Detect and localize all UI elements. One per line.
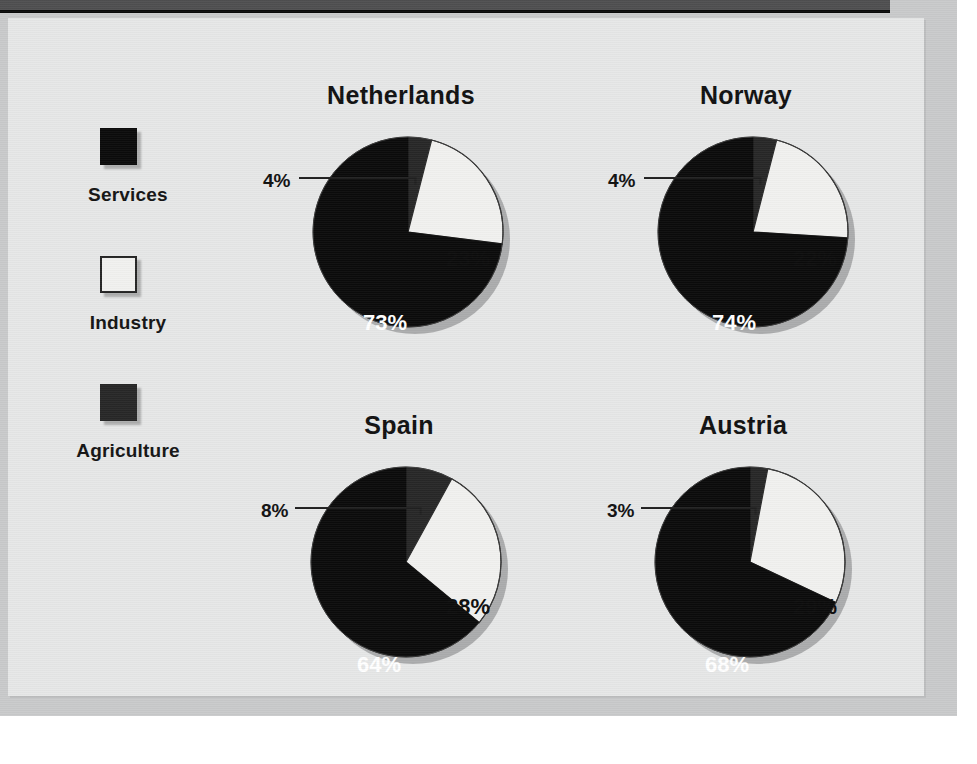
pie-slice-label-industry-norway: 22% xyxy=(793,246,837,272)
pie-slice-label-industry-netherlands: 23% xyxy=(446,246,490,272)
pie-title-norway: Norway xyxy=(596,80,896,110)
pie-title-spain: Spain xyxy=(249,410,549,440)
pie-leader-label-spain: 8% xyxy=(261,500,288,522)
pie-chart-austria: Austria 3% 29% 68% xyxy=(593,410,893,676)
pie-chart-spain: Spain 8% 28% 64% xyxy=(249,410,549,676)
pie-slice-label-services-spain: 64% xyxy=(357,652,401,678)
pie-leader-label-netherlands: 4% xyxy=(263,170,290,192)
slide-canvas: Services Industry Agriculture Netherland… xyxy=(0,0,957,716)
pie-title-netherlands: Netherlands xyxy=(251,80,551,110)
legend: Services Industry Agriculture xyxy=(18,128,238,512)
pie-chart-netherlands: Netherlands 4% 23% 73% xyxy=(251,80,551,346)
pie-slice-label-industry-spain: 28% xyxy=(446,594,490,620)
pie-canvas-norway: 4% 22% 74% xyxy=(596,116,896,346)
pie-slice-label-services-austria: 68% xyxy=(705,652,749,678)
pie-slice-label-services-netherlands: 73% xyxy=(363,310,407,336)
legend-swatch-industry-icon xyxy=(100,256,137,293)
pie-canvas-austria: 3% 29% 68% xyxy=(593,446,893,676)
legend-swatch-services-icon xyxy=(100,128,137,165)
pie-slice-label-industry-austria: 29% xyxy=(793,594,837,620)
pie-leader-label-austria: 3% xyxy=(607,500,634,522)
legend-label-agriculture: Agriculture xyxy=(18,440,238,462)
legend-item-agriculture: Agriculture xyxy=(18,384,238,512)
pie-svg-spain xyxy=(249,446,549,676)
pie-slice-label-services-norway: 74% xyxy=(712,310,756,336)
legend-swatch-agriculture-icon xyxy=(100,384,137,421)
legend-label-services: Services xyxy=(18,184,238,206)
pie-leader-label-norway: 4% xyxy=(608,170,635,192)
pie-canvas-netherlands: 4% 23% 73% xyxy=(251,116,551,346)
legend-label-industry: Industry xyxy=(18,312,238,334)
title-bar xyxy=(0,0,890,13)
pie-canvas-spain: 8% 28% 64% xyxy=(249,446,549,676)
pie-title-austria: Austria xyxy=(593,410,893,440)
pie-svg-austria xyxy=(593,446,893,676)
legend-item-services: Services xyxy=(18,128,238,256)
pie-chart-norway: Norway 4% 22% 74% xyxy=(596,80,896,346)
legend-item-industry: Industry xyxy=(18,256,238,384)
chart-panel: Services Industry Agriculture Netherland… xyxy=(8,18,924,696)
